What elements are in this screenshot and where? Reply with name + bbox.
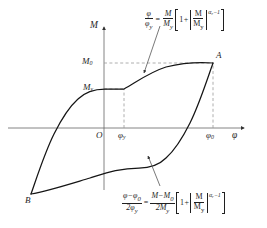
eq2-bracket-group: 1 + M My αr−1 bbox=[176, 192, 225, 214]
eq2-rhs-denominator: 2My bbox=[154, 204, 171, 215]
axis-group bbox=[8, 27, 244, 190]
eq1-rhs-fraction: M My bbox=[162, 10, 175, 30]
origin-label: O bbox=[96, 131, 103, 140]
tick-label-phi0: φ0 bbox=[206, 131, 214, 141]
eq1-rhs-den-sub: y bbox=[170, 22, 173, 29]
eq2-bracket-content: 1 + M My αr−1 bbox=[180, 192, 221, 214]
eq2-exponent-tail: −1 bbox=[214, 192, 221, 198]
eq1-plus: + bbox=[184, 16, 189, 24]
eq2-abs-bar-left bbox=[190, 193, 191, 213]
tick-label-phi0-sub: 0 bbox=[211, 134, 214, 140]
tick-label-m0: M0 bbox=[82, 57, 92, 67]
tick-label-m0-sub: 0 bbox=[90, 60, 93, 66]
eq1-equals: = bbox=[156, 16, 161, 24]
equation-masing-branch: φ−φ0 2φy = M−M0 2My 1 + M My αr−1 bbox=[121, 192, 225, 214]
tick-label-phiy-sub: y bbox=[123, 134, 126, 140]
eq2-exponent: αr−1 bbox=[209, 192, 221, 199]
eq1-abs-bar-right bbox=[206, 10, 207, 30]
tick-label-my: My bbox=[83, 83, 93, 93]
y-axis-label: M bbox=[90, 21, 98, 31]
tick-label-phiy: φy bbox=[118, 131, 126, 141]
eq1-bracket-right bbox=[221, 9, 225, 31]
eq2-lhs-numerator: φ−φ0 bbox=[122, 192, 143, 204]
eq1-bracket-left bbox=[175, 9, 179, 31]
eq1-abs-denominator: My bbox=[192, 19, 205, 30]
guide-lines-group bbox=[104, 63, 213, 128]
eq2-rhs-num-b-sub: 0 bbox=[170, 195, 173, 202]
eq2-abs-denominator: My bbox=[192, 203, 205, 214]
moment-curvature-hysteresis-figure: M φ O M0 My φy φ0 A B φ φy = M My 1 bbox=[0, 0, 267, 228]
eq1-lhs-fraction: φ φy bbox=[144, 10, 154, 30]
eq2-lhs-num-b-sub: 0 bbox=[137, 195, 140, 202]
eq1-exponent-tail: −1 bbox=[213, 9, 220, 15]
eq2-plus: + bbox=[184, 199, 189, 207]
eq2-abs-den-sub: y bbox=[201, 206, 204, 213]
eq1-abs-den-sub: y bbox=[200, 22, 203, 29]
eq2-equals: = bbox=[144, 199, 149, 207]
eq2-rhs-numerator: M−M0 bbox=[150, 192, 175, 204]
eq1-abs-group: M My bbox=[189, 10, 208, 30]
eq2-lhs-fraction: φ−φ0 2φy bbox=[122, 192, 143, 214]
eq1-rhs-den-base: M bbox=[163, 19, 170, 28]
tick-label-m0-base: M bbox=[82, 56, 90, 66]
eq2-bracket-right bbox=[222, 192, 226, 214]
eq2-lhs-den-sub: y bbox=[135, 207, 138, 214]
eq2-abs-bar-right bbox=[207, 193, 208, 213]
tick-label-my-base: M bbox=[83, 82, 91, 92]
eq1-lhs-denominator: φy bbox=[144, 19, 154, 30]
eq2-abs-fraction: M My bbox=[192, 193, 205, 213]
eq1-abs-bar-left bbox=[190, 10, 191, 30]
eq2-rhs-den-sub: y bbox=[166, 207, 169, 214]
eq1-bracket-group: 1 + M My αr−1 bbox=[175, 9, 224, 31]
eq1-bracket-content: 1 + M My αr−1 bbox=[179, 9, 220, 31]
eq2-abs-group: M My bbox=[189, 193, 208, 213]
equation-skeleton-curve: φ φy = M My 1 + M My αr−1 bbox=[143, 9, 224, 31]
point-label-b: B bbox=[25, 196, 31, 205]
eq2-bracket-left bbox=[176, 192, 180, 214]
eq2-one: 1 bbox=[180, 199, 184, 207]
eq2-rhs-fraction: M−M0 2My bbox=[150, 192, 175, 214]
tick-label-my-sub: y bbox=[91, 86, 94, 92]
eq1-lhs-den-sub: y bbox=[150, 22, 153, 29]
eq1-one: 1 bbox=[179, 16, 183, 24]
eq1-rhs-denominator: My bbox=[162, 19, 175, 30]
eq1-exponent: αr−1 bbox=[208, 9, 220, 16]
eq2-lhs-denominator: 2φy bbox=[125, 204, 139, 215]
eq1-abs-fraction: M My bbox=[192, 10, 205, 30]
lower-branch-curve bbox=[31, 63, 213, 194]
x-axis-label: φ bbox=[232, 131, 237, 141]
point-label-a: A bbox=[216, 51, 222, 60]
eq2-abs-den-base: M bbox=[194, 202, 201, 211]
